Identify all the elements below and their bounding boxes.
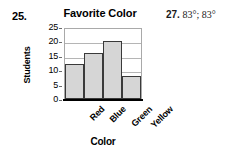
y-axis-title: Students xyxy=(22,35,32,95)
bar-blue xyxy=(84,53,103,99)
y-tick-mark xyxy=(59,57,62,58)
x-tick-label-green: Green xyxy=(129,104,154,129)
exercise-number: 25. xyxy=(12,10,27,22)
y-tick-label: 5 xyxy=(53,81,58,90)
bar-slot xyxy=(65,29,84,99)
bar-red xyxy=(65,64,84,99)
answer-item-value: 83°; 83° xyxy=(182,9,215,20)
y-tick-label: 20 xyxy=(48,37,58,46)
x-tick-label-blue: Blue xyxy=(107,104,127,124)
x-axis-title: Color xyxy=(64,136,142,147)
y-tick-label: 15 xyxy=(48,52,58,61)
bar-slot xyxy=(84,29,103,99)
answer-item-27: 27. 83°; 83° xyxy=(166,9,216,20)
x-tick-label-yellow: Yellow xyxy=(149,104,175,130)
bar-series xyxy=(65,29,141,99)
x-axis-tick-labels: RedBlueGreenYellow xyxy=(64,102,142,136)
x-axis-line xyxy=(63,99,143,101)
y-tick-mark xyxy=(59,100,62,101)
answer-item-number: 27. xyxy=(166,9,180,20)
bar-slot xyxy=(122,29,141,99)
chart-title: Favorite Color xyxy=(48,7,152,19)
y-tick-label: 10 xyxy=(48,66,58,75)
plot-area xyxy=(64,28,142,100)
y-tick-label: 25 xyxy=(48,23,58,32)
y-tick-mark xyxy=(59,86,62,87)
y-tick-mark xyxy=(59,71,62,72)
worksheet-page: 25. Favorite Color 27. 83°; 83° Students… xyxy=(0,0,233,159)
y-tick-label: 0 xyxy=(53,95,58,104)
y-axis-ticks: 2520151050 xyxy=(38,22,62,106)
bar-yellow xyxy=(122,76,141,99)
bar-chart: Students 2520151050 RedBlueGreenYellow C… xyxy=(0,22,233,159)
bar-slot xyxy=(103,29,122,99)
y-tick-mark xyxy=(59,28,62,29)
bar-green xyxy=(103,41,122,99)
y-tick-mark xyxy=(59,42,62,43)
x-tick-label-red: Red xyxy=(87,104,106,123)
